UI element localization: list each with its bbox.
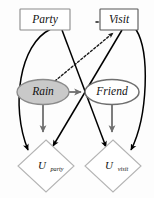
node-layer: Party Visit Rain Friend U party [17,9,141,192]
edge-rain-to-visit [55,33,113,81]
node-u-party-sublabel: party [49,165,63,172]
node-party-label: Party [31,13,58,26]
node-visit[interactable]: Visit [100,9,138,30]
node-u-party-label: U [38,159,47,171]
node-friend-label: Friend [95,85,128,97]
node-friend[interactable]: Friend [85,80,139,105]
diagram-svg: Party Visit Rain Friend U party [0,0,154,198]
node-visit-label: Visit [109,13,130,25]
node-u-visit-label: U [105,159,114,171]
influence-diagram-canvas: Party Visit Rain Friend U party [0,0,154,198]
node-rain-label: Rain [31,85,54,97]
node-u-visit-sublabel: visit [118,165,129,172]
node-party[interactable]: Party [20,9,70,30]
node-rain[interactable]: Rain [17,80,69,105]
